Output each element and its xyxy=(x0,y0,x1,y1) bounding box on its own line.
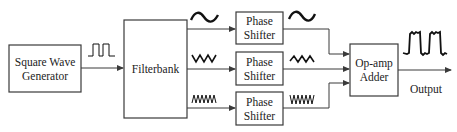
output-label: Output xyxy=(402,81,450,97)
phase-shifter-1-line2: Shifter xyxy=(244,28,275,42)
filterbank-label-text: Filterbank xyxy=(132,62,179,76)
phase-shifter-1-label: Phase Shifter xyxy=(236,12,283,44)
shifter-3-to-adder-arrow xyxy=(283,83,349,108)
phase-shifter-2-label: Phase Shifter xyxy=(236,52,283,85)
shifted-third-harmonic-icon xyxy=(290,56,314,62)
shifted-fifth-harmonic-icon xyxy=(290,95,314,104)
generator-label-line1: Square Wave xyxy=(15,55,76,69)
fundamental-sine-icon xyxy=(191,13,218,22)
adder-label: Op-amp Adder xyxy=(350,44,398,96)
output-label-text: Output xyxy=(410,82,442,96)
filterbank-label: Filterbank xyxy=(124,20,187,118)
phase-shifter-3-label: Phase Shifter xyxy=(236,92,283,125)
fifth-harmonic-icon xyxy=(192,95,216,103)
adder-label-line2: Adder xyxy=(360,70,389,84)
phase-shifter-3-line2: Shifter xyxy=(244,109,275,123)
generator-label: Square Wave Generator xyxy=(9,45,81,92)
output-wave-icon xyxy=(403,32,447,55)
block-diagram: Square Wave Generator Filterbank Phase S… xyxy=(0,0,457,132)
adder-label-line1: Op-amp xyxy=(355,56,393,70)
phase-shifter-2-line1: Phase xyxy=(246,55,273,69)
shifted-fundamental-sine-icon xyxy=(289,12,315,21)
shifter-1-to-adder-arrow xyxy=(283,29,349,54)
phase-shifter-1-line1: Phase xyxy=(246,14,273,28)
phase-shifter-3-line1: Phase xyxy=(246,95,273,109)
third-harmonic-icon xyxy=(192,55,216,62)
phase-shifter-2-line2: Shifter xyxy=(244,69,275,83)
square-wave-icon xyxy=(88,44,115,56)
generator-label-line2: Generator xyxy=(22,69,68,83)
